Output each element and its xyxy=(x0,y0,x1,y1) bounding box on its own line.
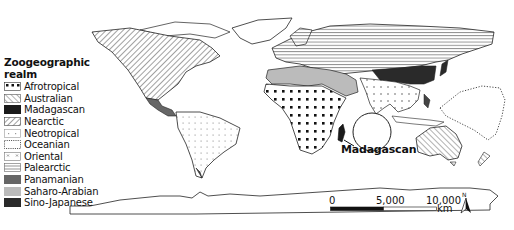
japan xyxy=(440,60,448,76)
madagascar xyxy=(338,124,345,142)
oceanian-swatch-icon xyxy=(4,140,21,149)
afrotropical-swatch-icon xyxy=(4,82,21,91)
legend-item-australian: Australian xyxy=(4,93,124,105)
nearctic-swatch-icon xyxy=(4,117,21,126)
legend-item-oriental: Oriental xyxy=(4,151,124,163)
legend-item-oceanian: Oceanian xyxy=(4,139,124,151)
legend-item-nearctic: Nearctic xyxy=(4,116,124,128)
neotropical-region xyxy=(176,112,240,178)
legend-item-madagascan: Madagascan xyxy=(4,104,124,116)
panamanian-region xyxy=(146,98,176,116)
legend-item-palearctic: Palearctic xyxy=(4,162,124,174)
legend-item-sino-japanese: Sino-Japanese xyxy=(4,197,124,209)
tasmania xyxy=(450,162,456,166)
philippines xyxy=(424,94,430,108)
australian-swatch-icon xyxy=(4,94,21,103)
north-arrow: N xyxy=(459,193,473,215)
scale-unit: km xyxy=(437,203,453,214)
madagascan-annotation-label: Madagascan xyxy=(341,143,416,156)
legend-title: Zoogeographic realm xyxy=(4,56,124,80)
madagascan-swatch-icon xyxy=(4,105,21,114)
neotropical-swatch-icon xyxy=(4,129,21,138)
saharo-arabian-swatch-icon xyxy=(4,187,21,196)
scale-tick-0: 0 xyxy=(329,195,335,206)
new-zealand xyxy=(478,152,490,166)
legend: Zoogeographic realm Afrotropical Austral… xyxy=(4,56,124,209)
legend-item-afrotropical: Afrotropical xyxy=(4,81,124,93)
scale-tick-5000: 5,000 xyxy=(376,195,405,206)
scale-bar-graphic xyxy=(330,206,438,212)
greenland xyxy=(232,18,292,44)
afrotropical-region xyxy=(264,84,346,154)
oriental-swatch-icon xyxy=(4,152,21,161)
indonesia xyxy=(392,116,444,126)
legend-item-neotropical: Neotropical xyxy=(4,127,124,139)
legend-item-saharo-arabian: Saharo-Arabian xyxy=(4,185,124,197)
palearctic-swatch-icon xyxy=(4,163,21,172)
panamanian-swatch-icon xyxy=(4,175,21,184)
north-arrow-icon xyxy=(459,198,473,214)
sino-japanese-swatch-icon xyxy=(4,198,21,207)
north-label: N xyxy=(462,191,467,198)
australian-region xyxy=(416,126,462,160)
legend-item-panamanian: Panamanian xyxy=(4,174,124,186)
